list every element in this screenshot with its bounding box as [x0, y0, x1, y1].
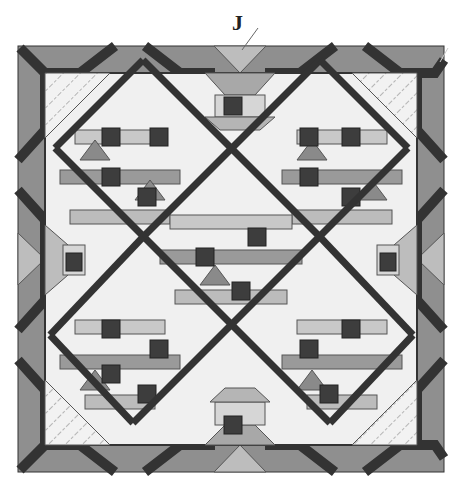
- quilt-svg: [0, 0, 451, 491]
- label-j: J: [232, 10, 243, 36]
